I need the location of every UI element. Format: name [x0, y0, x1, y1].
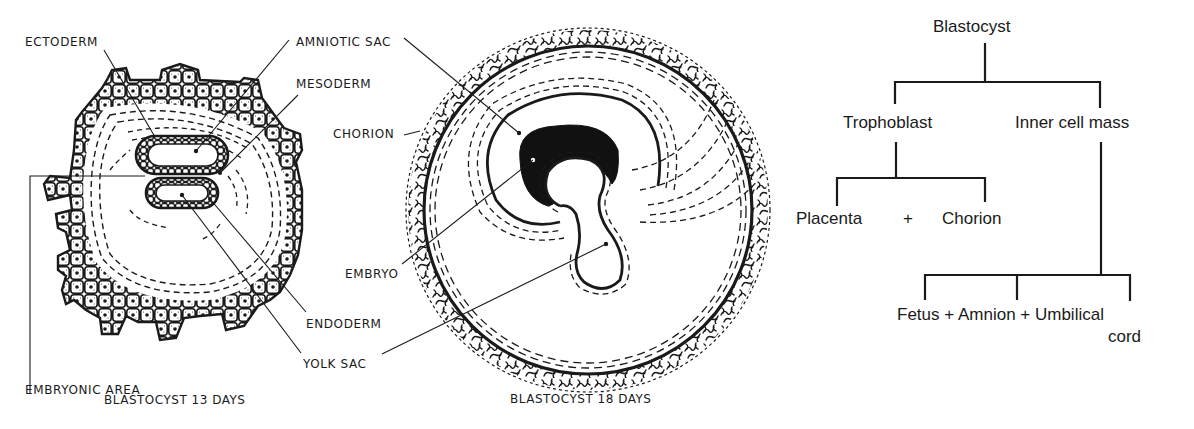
- tree-node-chorion: Chorion: [942, 210, 1002, 227]
- label-embryo: EMBRYO: [345, 268, 398, 280]
- tree-node-placenta: Placenta: [796, 210, 862, 227]
- tree-node-blastocyst: Blastocyst: [933, 18, 1010, 35]
- label-ectoderm: ECTODERM: [25, 36, 98, 48]
- tree-node-cord: cord: [1108, 328, 1141, 345]
- label-mesoderm: MESODERM: [296, 78, 371, 90]
- tree-connectors: [837, 43, 1130, 301]
- diagram-artwork: [0, 0, 1194, 429]
- caption-18-days: BLASTOCYST 18 DAYS: [510, 393, 651, 405]
- blastocyst-18-days-drawing: [382, 28, 770, 392]
- blastocyst-figure: ECTODERM AMNIOTIC SAC MESODERM EMBRYONIC…: [0, 0, 1194, 429]
- tree-node-trophoblast: Trophoblast: [843, 114, 932, 131]
- label-chorion: CHORION: [333, 128, 394, 140]
- tree-plus-sign: +: [903, 210, 913, 227]
- label-yolk-sac: YOLK SAC: [303, 358, 367, 370]
- tree-node-inner-cell-mass: Inner cell mass: [1015, 114, 1129, 131]
- blastocyst-13-days-drawing: [30, 40, 306, 393]
- label-endoderm: ENDODERM: [306, 318, 382, 330]
- tree-node-fetus-amnion-umbilical: Fetus + Amnion + Umbilical: [897, 306, 1104, 323]
- label-amniotic-sac: AMNIOTIC SAC: [296, 36, 391, 48]
- caption-13-days: BLASTOCYST 13 DAYS: [104, 394, 245, 406]
